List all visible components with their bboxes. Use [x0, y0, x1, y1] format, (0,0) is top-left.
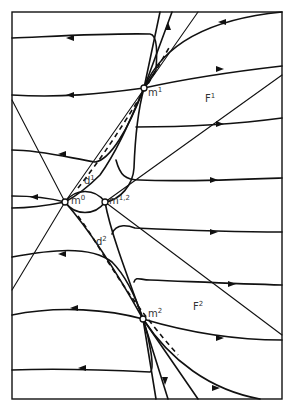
label-base: m: [109, 195, 119, 206]
phase-portrait: [0, 0, 296, 407]
label-base: m: [148, 87, 158, 98]
label-sup: 1: [158, 86, 162, 94]
point-m2: [140, 316, 146, 322]
line-m0-lower-left: [12, 202, 65, 290]
label-m0: m0: [71, 196, 85, 206]
label-m1: m1: [148, 88, 162, 98]
label-sup: 2: [199, 300, 203, 308]
label-base: m: [148, 308, 158, 319]
label-m12: m1,2: [109, 196, 130, 206]
line-m12-to-F2: [105, 202, 282, 335]
label-sup: 1,2: [119, 194, 130, 202]
label-base: m: [71, 195, 81, 206]
label-m2: m2: [148, 309, 162, 319]
line-m0-upper-right: [65, 12, 198, 202]
label-sup: 2: [102, 235, 106, 243]
point-m12: [102, 199, 108, 205]
label-base: F: [205, 93, 211, 104]
point-m0: [62, 199, 68, 205]
label-sup: 0: [81, 194, 85, 202]
label-sup: 1: [211, 92, 215, 100]
label-sup: 2: [158, 307, 162, 315]
label-d1: d1: [84, 176, 95, 186]
label-sup: 1: [90, 174, 94, 182]
label-F2: F2: [193, 302, 203, 312]
point-m1: [141, 85, 147, 91]
label-d2: d2: [96, 237, 107, 247]
line-m12-to-F1: [105, 75, 282, 202]
label-F1: F1: [205, 94, 215, 104]
label-base: F: [193, 301, 199, 312]
